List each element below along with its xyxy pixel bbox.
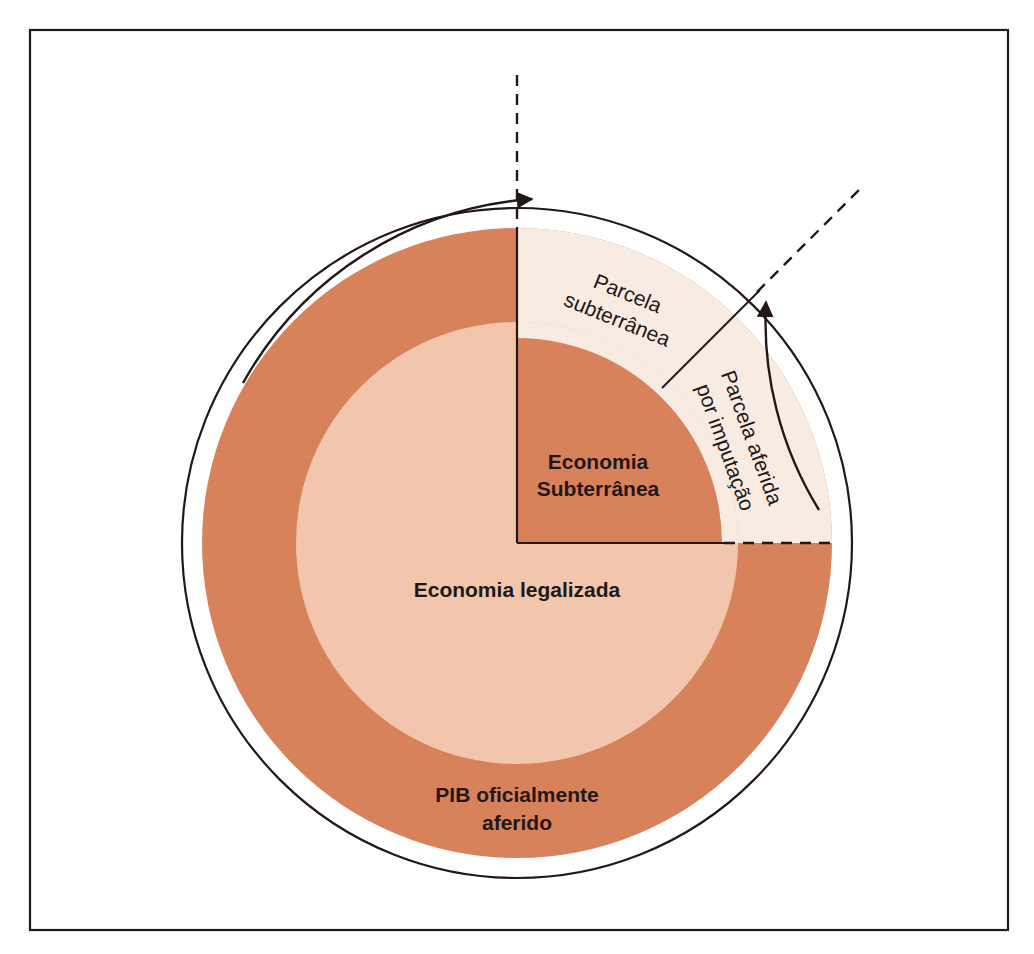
label-economia-legalizada: Economia legalizada xyxy=(414,578,621,601)
diagram-svg: Economia Subterrânea Economia legalizada… xyxy=(0,0,1034,954)
figure-canvas: Economia Subterrânea Economia legalizada… xyxy=(0,0,1034,954)
label-pib-oficialmente-aferido-line1: PIB oficialmente xyxy=(435,783,598,806)
label-economia-subterranea-line1: Economia xyxy=(548,450,649,473)
label-pib-oficialmente-aferido-line2: aferido xyxy=(482,811,552,834)
label-economia-subterranea-line2: Subterrânea xyxy=(537,477,660,500)
